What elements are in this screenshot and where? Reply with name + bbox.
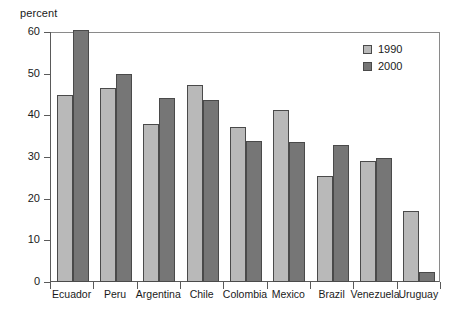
x-axis-tick (50, 282, 51, 289)
y-axis-tick (44, 199, 51, 200)
bar-colombia-1990 (230, 127, 246, 282)
y-axis-tick-label: 50 (6, 68, 40, 79)
bar-mexico-2000 (289, 142, 305, 282)
bar-ecuador-2000 (73, 30, 89, 282)
y-axis-tick (44, 240, 51, 241)
y-axis-tick-label: 60 (6, 26, 40, 37)
x-axis-category-label: Peru (104, 288, 126, 300)
y-axis-tick (44, 74, 51, 75)
bar-venezuela-1990 (360, 161, 376, 282)
bar-chile-2000 (203, 100, 219, 282)
x-axis-category-label: Argentina (136, 288, 181, 300)
bar-peru-2000 (116, 74, 132, 282)
y-axis-tick-label-wrap: 30 (0, 151, 40, 162)
bar-argentina-1990 (143, 124, 159, 282)
bar-peru-1990 (100, 88, 116, 282)
legend-label: 1990 (378, 44, 402, 55)
bar-uruguay-2000 (419, 272, 435, 282)
x-axis-category-label: Venezuela (350, 288, 399, 300)
x-axis-category-label: Mexico (272, 288, 305, 300)
y-axis-tick (44, 157, 51, 158)
y-axis-tick-label: 40 (6, 109, 40, 120)
scan-artifact (0, 314, 453, 323)
y-axis-tick-label: 30 (6, 151, 40, 162)
x-axis-category-label: Brazil (319, 288, 345, 300)
y-axis-tick-label-wrap: 50 (0, 68, 40, 79)
bar-chart: percent 0102030405060 EcuadorPeruArgenti… (0, 0, 453, 323)
legend-swatch-icon (363, 62, 372, 71)
x-axis-tick (310, 282, 311, 289)
legend-item-1990: 1990 (363, 42, 425, 56)
legend: 19902000 (363, 42, 425, 76)
bar-colombia-2000 (246, 141, 262, 282)
legend-swatch-icon (363, 45, 372, 54)
y-axis-tick (44, 32, 51, 33)
bar-argentina-2000 (159, 98, 175, 282)
x-axis-category-label: Chile (190, 288, 214, 300)
legend-label: 2000 (378, 61, 402, 72)
y-axis-tick-label-wrap: 10 (0, 234, 40, 245)
y-axis-tick-label-wrap: 40 (0, 109, 40, 120)
y-axis-tick-label-wrap: 20 (0, 193, 40, 204)
bar-venezuela-2000 (376, 158, 392, 282)
bar-chile-1990 (187, 85, 203, 282)
bar-uruguay-1990 (403, 211, 419, 282)
y-axis-tick-label: 20 (6, 193, 40, 204)
y-axis-tick-label: 10 (6, 234, 40, 245)
y-axis-tick-label-wrap: 60 (0, 26, 40, 37)
x-axis-category-label: Colombia (223, 288, 267, 300)
x-axis-tick (440, 282, 441, 289)
bar-mexico-1990 (273, 110, 289, 282)
y-axis-tick-label-wrap: 0 (0, 276, 40, 287)
y-axis-tick (44, 115, 51, 116)
bar-ecuador-1990 (57, 95, 73, 283)
y-axis-tick-label: 0 (6, 276, 40, 287)
x-axis-category-label: Uruguay (398, 288, 438, 300)
y-axis-unit-label: percent (20, 7, 57, 20)
legend-item-2000: 2000 (363, 59, 425, 73)
bar-brazil-2000 (333, 145, 349, 282)
bar-brazil-1990 (317, 176, 333, 282)
x-axis-category-label: Ecuador (52, 288, 91, 300)
x-axis-tick (93, 282, 94, 289)
